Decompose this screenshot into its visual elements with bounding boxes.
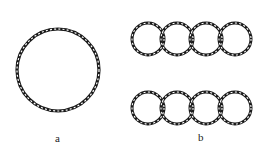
panel-a-ring xyxy=(17,29,99,111)
panel-b-chain-bottom xyxy=(132,92,251,124)
panel-b-chain-top xyxy=(132,23,251,55)
panel-b-label: b xyxy=(198,131,204,143)
panel-a-label: a xyxy=(55,132,60,144)
figure-canvas xyxy=(0,0,277,155)
